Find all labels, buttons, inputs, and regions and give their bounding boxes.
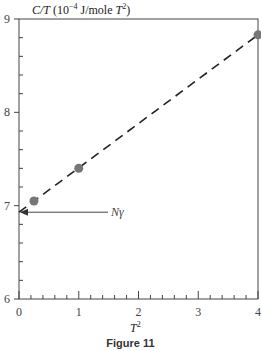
x-label-t: T [130, 321, 137, 335]
y-tick-label: 9 [4, 12, 10, 26]
x-tick-label: 1 [76, 305, 82, 319]
plot-frame [19, 19, 258, 299]
annotation-label: Nγ [110, 205, 124, 219]
y-tick-label: 8 [4, 105, 10, 119]
data-point [29, 197, 38, 206]
figure-caption: Figure 11 [0, 337, 261, 349]
chart-plot: 678901234Nγ [0, 0, 261, 351]
data-point [74, 164, 83, 173]
x-tick-label: 3 [195, 305, 201, 319]
x-tick-label: 0 [16, 305, 22, 319]
x-tick-label: 4 [255, 305, 261, 319]
y-tick-label: 7 [4, 199, 10, 213]
x-tick-label: 2 [136, 305, 142, 319]
fit-line [19, 35, 258, 212]
y-tick-label: 6 [4, 292, 10, 306]
x-axis-label: T2 [130, 320, 141, 336]
x-label-exp: 2 [137, 320, 141, 329]
